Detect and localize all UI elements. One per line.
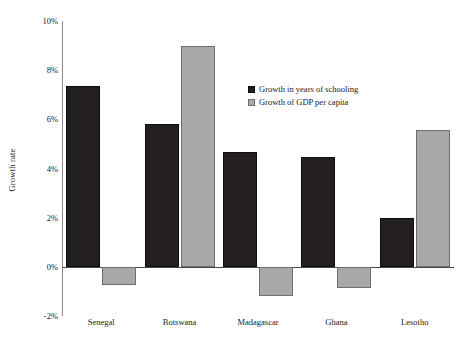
x-category-label: Lesotho [401,318,428,327]
chart-legend: Growth in years of schooling Growth of G… [248,83,358,109]
y-tick-label: 4% [18,164,58,173]
x-category-label: Ghana [325,318,347,327]
x-category-label: Botswana [163,318,197,327]
y-tick-label: 2% [18,213,58,222]
bar [259,267,293,296]
legend-item-schooling: Growth in years of schooling [248,83,358,96]
x-category-label: Madagascar [237,318,278,327]
bar [223,152,257,267]
y-axis-line [62,21,63,316]
legend-label-gdp: Growth of GDP per capita [259,98,348,107]
y-axis-tick-labels: 10%8%6%4%2%0%-2% [14,21,58,316]
plot-area: SenegalBotswanaMadagascarGhanaLesotho Gr… [62,21,454,316]
y-tick-label: 6% [18,115,58,124]
y-tick-label: 10% [18,17,58,26]
y-tick-label: -2% [18,312,58,321]
bar [380,218,414,267]
bar-chart: Growth rate 10%8%6%4%2%0%-2% SenegalBots… [0,0,466,340]
bar [66,86,100,267]
bar [102,267,136,285]
x-category-label: Senegal [88,318,115,327]
legend-swatch-light-icon [248,99,255,106]
bar [301,157,335,267]
y-tick-label: 8% [18,66,58,75]
legend-swatch-dark-icon [248,86,255,93]
bar [337,267,371,288]
bar [181,46,215,267]
bar [145,124,179,267]
bar [416,130,450,267]
y-tick-label: 0% [18,263,58,272]
legend-item-gdp: Growth of GDP per capita [248,96,358,109]
legend-label-schooling: Growth in years of schooling [259,85,358,94]
